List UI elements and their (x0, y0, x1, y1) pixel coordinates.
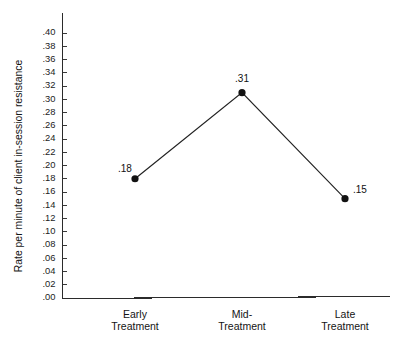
y-axis-tick-label: .18 (42, 172, 55, 183)
y-axis-tick-label: .40 (42, 26, 55, 37)
y-axis-tick-label: .08 (42, 238, 55, 249)
x-axis-category-label: Early (123, 308, 148, 320)
data-point-value-label: .18 (118, 163, 132, 174)
x-axis-category-label: Treatment (111, 320, 159, 332)
y-axis-tick-label: .00 (42, 291, 55, 302)
y-axis-tick-label: .30 (42, 93, 55, 104)
y-axis-tick-label: .38 (42, 40, 55, 51)
y-axis-tick-label: .24 (42, 132, 55, 143)
data-point-value-label: .31 (235, 73, 249, 84)
y-axis-tick-label: .26 (42, 119, 55, 130)
x-axis-line (62, 297, 390, 299)
data-point-marker (341, 195, 348, 202)
y-axis-tick-label: .06 (42, 252, 55, 263)
chart-canvas: Rate per minute of client in-session res… (0, 0, 404, 349)
data-point-marker (131, 175, 138, 182)
y-axis-title-group: Rate per minute of client in-session res… (13, 60, 24, 273)
y-axis-tick-label: .32 (42, 79, 55, 90)
x-axis-category-labels: EarlyTreatmentMid-TreatmentLateTreatment (111, 308, 369, 332)
resistance-rate-line-chart: Rate per minute of client in-session res… (0, 0, 404, 349)
y-axis-tick-label: .12 (42, 212, 55, 223)
y-axis-tick-label: .16 (42, 185, 55, 196)
y-axis-tick-label: .22 (42, 146, 55, 157)
y-axis-title: Rate per minute of client in-session res… (13, 60, 24, 273)
y-axis-tick-label: .34 (42, 66, 55, 77)
x-axis-category-label: Late (335, 308, 356, 320)
data-point-marker (238, 89, 245, 96)
x-axis-category-label: Treatment (218, 320, 266, 332)
resistance-series-line (135, 93, 345, 199)
y-axis-tick-label: .02 (42, 278, 55, 289)
x-axis-category-label: Mid- (232, 308, 253, 320)
y-axis-tick-label: .04 (42, 265, 55, 276)
y-axis-tick-label: .14 (42, 199, 55, 210)
y-axis-tick-labels: .00.02.04.06.08.10.12.14.16.18.20.22.24.… (42, 26, 55, 302)
y-axis-tick-marks (63, 33, 68, 298)
y-axis-tick-label: .36 (42, 53, 55, 64)
y-axis-tick-label: .20 (42, 159, 55, 170)
data-point-value-label: .15 (353, 184, 367, 195)
data-point-markers (131, 89, 348, 202)
y-axis-tick-label: .10 (42, 225, 55, 236)
y-axis-tick-label: .28 (42, 106, 55, 117)
x-axis-category-label: Treatment (321, 320, 369, 332)
